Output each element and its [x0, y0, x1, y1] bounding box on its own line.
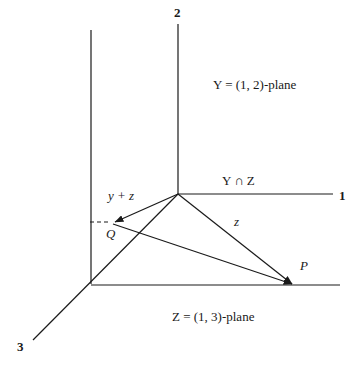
vector-y-plus-z-label: y + z	[108, 189, 134, 202]
figure-canvas: 2 1 3 Y = (1, 2)-plane Z = (1, 3)-plane …	[0, 0, 360, 374]
vector-Q-to-P-line	[113, 224, 292, 284]
plane-Y-label: Y = (1, 2)-plane	[213, 78, 296, 91]
point-P-label: P	[300, 259, 308, 272]
axis-3-label: 3	[17, 340, 24, 353]
plane-Z-label: Z = (1, 3)-plane	[172, 310, 254, 323]
intersection-label: Y ∩ Z	[222, 174, 255, 187]
axis-3-line	[33, 194, 178, 340]
axis-2-label: 2	[174, 6, 181, 19]
vector-z-label: z	[234, 215, 239, 228]
axis-1-label: 1	[339, 189, 346, 202]
vector-z-line	[178, 194, 292, 284]
point-Q-label: Q	[106, 227, 115, 240]
